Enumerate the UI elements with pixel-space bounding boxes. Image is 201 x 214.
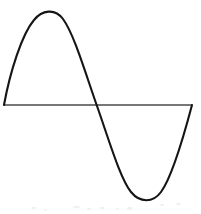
figure-caption: [0, 205, 201, 214]
figure-canvas: [0, 0, 201, 214]
sine-wave-figure: [0, 0, 201, 214]
figure-background: [0, 0, 201, 214]
